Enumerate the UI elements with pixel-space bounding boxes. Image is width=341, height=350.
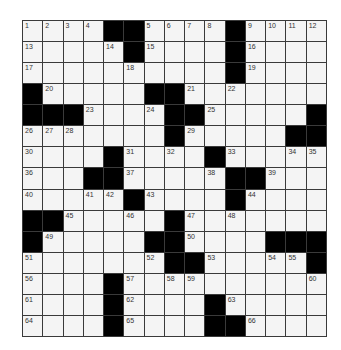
crossword-cell[interactable]	[286, 211, 305, 231]
crossword-cell[interactable]: 35	[307, 147, 326, 167]
crossword-cell[interactable]	[205, 274, 224, 294]
crossword-cell[interactable]: 58	[165, 274, 184, 294]
crossword-cell[interactable]	[64, 253, 83, 273]
crossword-cell[interactable]: 24	[145, 105, 164, 125]
crossword-cell[interactable]: 47	[185, 211, 204, 231]
crossword-cell[interactable]: 22	[226, 84, 245, 104]
crossword-cell[interactable]	[266, 274, 285, 294]
crossword-cell[interactable]: 60	[307, 274, 326, 294]
crossword-cell[interactable]: 53	[205, 253, 224, 273]
crossword-cell[interactable]	[165, 316, 184, 336]
crossword-cell[interactable]: 9	[246, 21, 265, 41]
crossword-cell[interactable]	[145, 295, 164, 315]
crossword-cell[interactable]: 4	[84, 21, 103, 41]
crossword-cell[interactable]	[185, 316, 204, 336]
crossword-cell[interactable]	[84, 126, 103, 146]
crossword-cell[interactable]	[43, 253, 62, 273]
crossword-cell[interactable]: 66	[246, 316, 265, 336]
crossword-cell[interactable]	[165, 168, 184, 188]
crossword-cell[interactable]	[307, 63, 326, 83]
crossword-cell[interactable]	[286, 84, 305, 104]
crossword-cell[interactable]	[286, 105, 305, 125]
crossword-cell[interactable]: 16	[246, 42, 265, 62]
crossword-cell[interactable]	[43, 190, 62, 210]
crossword-cell[interactable]	[43, 147, 62, 167]
crossword-cell[interactable]	[124, 126, 143, 146]
crossword-cell[interactable]	[165, 63, 184, 83]
crossword-cell[interactable]: 50	[185, 232, 204, 252]
crossword-cell[interactable]: 3	[64, 21, 83, 41]
crossword-cell[interactable]	[205, 190, 224, 210]
crossword-cell[interactable]: 13	[23, 42, 42, 62]
crossword-cell[interactable]	[165, 295, 184, 315]
crossword-cell[interactable]	[266, 126, 285, 146]
crossword-cell[interactable]	[266, 211, 285, 231]
crossword-cell[interactable]: 45	[64, 211, 83, 231]
crossword-cell[interactable]: 64	[23, 316, 42, 336]
crossword-cell[interactable]	[205, 84, 224, 104]
crossword-cell[interactable]: 57	[124, 274, 143, 294]
crossword-cell[interactable]	[64, 42, 83, 62]
crossword-cell[interactable]	[266, 42, 285, 62]
crossword-cell[interactable]	[205, 126, 224, 146]
crossword-cell[interactable]	[246, 295, 265, 315]
crossword-cell[interactable]	[104, 211, 123, 231]
crossword-cell[interactable]	[124, 105, 143, 125]
crossword-cell[interactable]: 40	[23, 190, 42, 210]
crossword-cell[interactable]	[205, 42, 224, 62]
crossword-cell[interactable]	[145, 168, 164, 188]
crossword-cell[interactable]	[43, 42, 62, 62]
crossword-cell[interactable]	[43, 295, 62, 315]
crossword-cell[interactable]	[307, 84, 326, 104]
crossword-cell[interactable]: 20	[43, 84, 62, 104]
crossword-cell[interactable]	[246, 211, 265, 231]
crossword-cell[interactable]: 31	[124, 147, 143, 167]
crossword-cell[interactable]	[205, 211, 224, 231]
crossword-cell[interactable]	[64, 274, 83, 294]
crossword-cell[interactable]	[185, 295, 204, 315]
crossword-cell[interactable]: 65	[124, 316, 143, 336]
crossword-cell[interactable]	[124, 84, 143, 104]
crossword-cell[interactable]	[185, 190, 204, 210]
crossword-cell[interactable]	[84, 63, 103, 83]
crossword-cell[interactable]	[64, 295, 83, 315]
crossword-cell[interactable]	[84, 42, 103, 62]
crossword-cell[interactable]	[43, 168, 62, 188]
crossword-cell[interactable]	[246, 274, 265, 294]
crossword-cell[interactable]	[246, 105, 265, 125]
crossword-cell[interactable]	[286, 295, 305, 315]
crossword-cell[interactable]: 10	[266, 21, 285, 41]
crossword-cell[interactable]: 43	[145, 190, 164, 210]
crossword-cell[interactable]: 11	[286, 21, 305, 41]
crossword-cell[interactable]	[64, 63, 83, 83]
crossword-cell[interactable]: 61	[23, 295, 42, 315]
crossword-cell[interactable]: 21	[185, 84, 204, 104]
crossword-cell[interactable]: 34	[286, 147, 305, 167]
crossword-cell[interactable]	[205, 63, 224, 83]
crossword-cell[interactable]	[64, 232, 83, 252]
crossword-cell[interactable]	[64, 316, 83, 336]
crossword-cell[interactable]	[307, 316, 326, 336]
crossword-cell[interactable]	[145, 126, 164, 146]
crossword-cell[interactable]	[307, 42, 326, 62]
crossword-cell[interactable]: 29	[185, 126, 204, 146]
crossword-cell[interactable]	[145, 147, 164, 167]
crossword-cell[interactable]: 39	[266, 168, 285, 188]
crossword-cell[interactable]: 63	[226, 295, 245, 315]
crossword-cell[interactable]	[246, 232, 265, 252]
crossword-cell[interactable]: 62	[124, 295, 143, 315]
crossword-cell[interactable]: 36	[23, 168, 42, 188]
crossword-cell[interactable]	[124, 232, 143, 252]
crossword-cell[interactable]	[84, 295, 103, 315]
crossword-cell[interactable]: 14	[104, 42, 123, 62]
crossword-cell[interactable]: 42	[104, 190, 123, 210]
crossword-cell[interactable]: 51	[23, 253, 42, 273]
crossword-cell[interactable]	[165, 190, 184, 210]
crossword-cell[interactable]	[84, 147, 103, 167]
crossword-cell[interactable]	[84, 274, 103, 294]
crossword-cell[interactable]	[286, 274, 305, 294]
crossword-cell[interactable]	[226, 126, 245, 146]
crossword-cell[interactable]: 38	[205, 168, 224, 188]
crossword-cell[interactable]	[104, 253, 123, 273]
crossword-cell[interactable]	[104, 63, 123, 83]
